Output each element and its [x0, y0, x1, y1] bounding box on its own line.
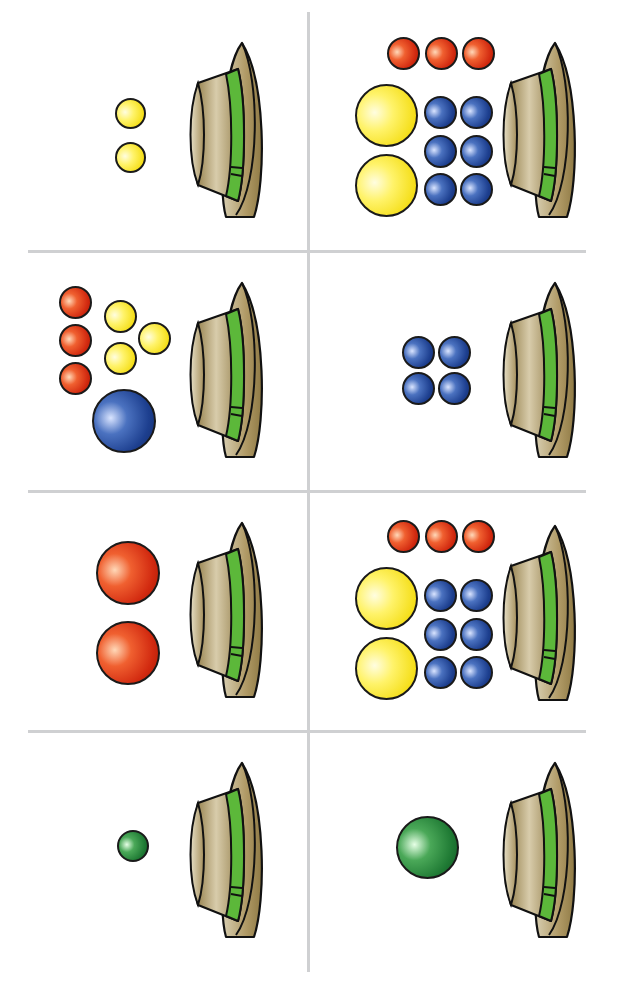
blue-ball-icon [438, 336, 471, 369]
yellow-ball-icon [115, 98, 146, 129]
red-ball-icon [462, 37, 495, 70]
yellow-ball-icon [104, 300, 137, 333]
blue-ball-icon [460, 96, 493, 129]
yellow-ball-icon [355, 637, 418, 700]
blue-ball-icon [460, 618, 493, 651]
blue-ball-icon [424, 656, 457, 689]
red-ball-icon [59, 324, 92, 357]
hat-icon [184, 761, 264, 939]
green-ball-icon [396, 816, 459, 879]
blue-ball-icon [460, 579, 493, 612]
blue-ball-icon [424, 618, 457, 651]
red-ball-icon [59, 362, 92, 395]
yellow-ball-icon [355, 567, 418, 630]
horizontal-divider-3 [28, 730, 586, 733]
red-ball-icon [425, 37, 458, 70]
blue-ball-icon [460, 135, 493, 168]
red-ball-icon [387, 520, 420, 553]
hat-icon [497, 761, 577, 939]
red-ball-icon [387, 37, 420, 70]
yellow-ball-icon [355, 154, 418, 217]
horizontal-divider-1 [28, 250, 586, 253]
green-ball-icon [117, 830, 149, 862]
blue-ball-icon [92, 389, 156, 453]
blue-ball-icon [402, 372, 435, 405]
horizontal-divider-2 [28, 490, 586, 493]
hat-icon [184, 281, 264, 459]
blue-ball-icon [424, 135, 457, 168]
hat-icon [497, 524, 577, 702]
hat-icon [184, 41, 264, 219]
red-ball-icon [59, 286, 92, 319]
yellow-ball-icon [355, 84, 418, 147]
yellow-ball-icon [104, 342, 137, 375]
blue-ball-icon [438, 372, 471, 405]
blue-ball-icon [424, 96, 457, 129]
red-ball-icon [425, 520, 458, 553]
blue-ball-icon [460, 656, 493, 689]
hat-icon [184, 521, 264, 699]
blue-ball-icon [424, 579, 457, 612]
red-ball-icon [96, 621, 160, 685]
yellow-ball-icon [138, 322, 171, 355]
blue-ball-icon [402, 336, 435, 369]
hat-icon [497, 41, 577, 219]
yellow-ball-icon [115, 142, 146, 173]
red-ball-icon [96, 541, 160, 605]
red-ball-icon [462, 520, 495, 553]
hat-icon [497, 281, 577, 459]
blue-ball-icon [460, 173, 493, 206]
blue-ball-icon [424, 173, 457, 206]
